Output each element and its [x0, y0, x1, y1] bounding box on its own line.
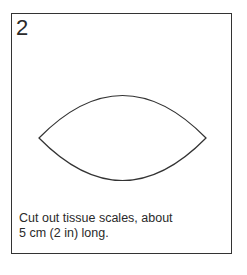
- instruction-panel: 2 Cut out tissue scales, about 5 cm (2 i…: [11, 13, 232, 254]
- caption-line-1: Cut out tissue scales, about: [19, 211, 219, 226]
- instruction-caption: Cut out tissue scales, about 5 cm (2 in)…: [19, 211, 219, 241]
- caption-line-2: 5 cm (2 in) long.: [19, 226, 219, 241]
- step-number: 2: [16, 17, 28, 39]
- tissue-scale-illustration: [35, 93, 210, 183]
